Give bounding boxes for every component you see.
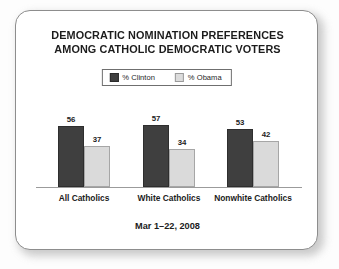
chart-category-labels: All Catholics White Catholics Nonwhite C… xyxy=(36,193,302,207)
legend-swatch-clinton-icon xyxy=(109,73,118,82)
chart-footer-note: Mar 1–22, 2008 xyxy=(16,221,319,231)
bar-value-clinton-2: 53 xyxy=(236,119,245,127)
chart-card: DEMOCRATIC NOMINATION PREFERENCES AMONG … xyxy=(15,10,318,250)
legend-item-clinton[interactable]: % Clinton xyxy=(109,73,155,82)
bar-wrap-obama-0: 37 xyxy=(84,115,110,187)
category-label-0: All Catholics xyxy=(59,193,110,203)
bar-value-clinton-1: 57 xyxy=(152,115,161,123)
chart-title-line-2: AMONG CATHOLIC DEMOCRATIC VOTERS xyxy=(21,42,315,56)
bar-wrap-clinton-0: 56 xyxy=(58,115,84,187)
bar-obama-2[interactable] xyxy=(253,141,279,187)
bar-group-white-catholics: 57 34 xyxy=(143,115,195,187)
bar-clinton-1[interactable] xyxy=(143,125,169,187)
category-label-2: Nonwhite Catholics xyxy=(214,193,292,203)
chart-legend: % Clinton % Obama xyxy=(101,69,231,86)
chart-page: DEMOCRATIC NOMINATION PREFERENCES AMONG … xyxy=(0,0,339,269)
bar-obama-0[interactable] xyxy=(84,146,110,187)
legend-label-obama: % Obama xyxy=(188,73,222,82)
bar-wrap-clinton-1: 57 xyxy=(143,115,169,187)
chart-baseline-axis xyxy=(36,187,302,188)
bar-wrap-obama-1: 34 xyxy=(169,115,195,187)
bar-value-obama-2: 42 xyxy=(262,131,271,139)
chart-plot-area: 56 37 57 34 53 xyxy=(36,115,299,187)
bar-value-obama-1: 34 xyxy=(178,139,187,147)
bar-value-obama-0: 37 xyxy=(93,136,102,144)
category-label-1: White Catholics xyxy=(138,193,201,203)
bar-clinton-0[interactable] xyxy=(58,126,84,187)
bar-clinton-2[interactable] xyxy=(227,129,253,187)
chart-title-line-1: DEMOCRATIC NOMINATION PREFERENCES xyxy=(21,28,315,42)
legend-item-obama[interactable]: % Obama xyxy=(175,73,222,82)
bar-wrap-obama-2: 42 xyxy=(253,115,279,187)
chart-title: DEMOCRATIC NOMINATION PREFERENCES AMONG … xyxy=(16,28,319,56)
bar-group-nonwhite-catholics: 53 42 xyxy=(227,115,279,187)
legend-swatch-obama-icon xyxy=(175,73,184,82)
bar-group-all-catholics: 56 37 xyxy=(58,115,110,187)
bar-wrap-clinton-2: 53 xyxy=(227,115,253,187)
bar-obama-1[interactable] xyxy=(169,149,195,187)
legend-label-clinton: % Clinton xyxy=(122,73,155,82)
bar-value-clinton-0: 56 xyxy=(67,116,76,124)
